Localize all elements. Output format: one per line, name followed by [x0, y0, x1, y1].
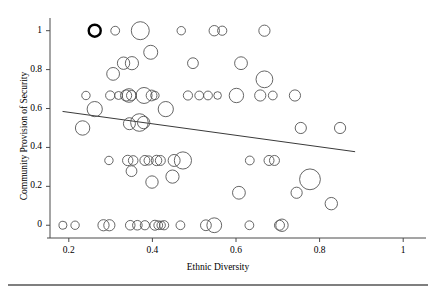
data-point-20: [136, 87, 152, 103]
scatter-plot-figure: 00.20.40.60.810.20.40.60.81 Community Pr…: [0, 0, 436, 294]
data-point-54: [146, 176, 158, 188]
data-point-1: [111, 26, 120, 35]
data-point-56: [291, 187, 302, 198]
data-point-47: [174, 152, 191, 169]
data-point-23: [183, 91, 192, 100]
x-tick-label-4: 1: [388, 245, 418, 255]
data-point-72: [245, 221, 254, 230]
data-point-35: [123, 118, 135, 130]
data-point-30: [289, 90, 300, 101]
data-point-7: [144, 45, 158, 59]
data-point-29: [268, 91, 277, 100]
data-point-12: [107, 67, 120, 80]
data-point-11: [235, 57, 248, 70]
data-point-69: [176, 221, 185, 230]
data-point-15: [106, 91, 115, 100]
data-points: [59, 22, 346, 233]
data-point-64: [140, 221, 149, 230]
data-point-25: [204, 91, 213, 100]
data-point-5: [218, 26, 227, 35]
trend-line: [63, 111, 356, 151]
data-point-3: [177, 27, 185, 35]
data-point-37: [295, 122, 306, 133]
data-point-55: [233, 186, 246, 199]
x-tick-label-2: 0.6: [221, 245, 251, 255]
data-point-28: [255, 90, 266, 101]
data-point-36: [75, 121, 89, 135]
axes: [46, 18, 426, 242]
data-point-58: [59, 221, 67, 229]
data-point-9: [125, 57, 138, 70]
data-point-10: [188, 58, 199, 69]
data-point-6: [259, 25, 270, 36]
data-point-51: [126, 166, 137, 177]
data-point-24: [195, 91, 204, 100]
highlighted-data-point: [89, 25, 101, 37]
data-point-71: [207, 218, 222, 233]
data-point-52: [166, 170, 179, 183]
regression-line: [63, 111, 356, 151]
data-point-13: [256, 71, 273, 88]
x-axis-title: Ethnic Diversity: [0, 262, 436, 272]
data-point-2: [131, 22, 149, 40]
data-point-27: [229, 88, 243, 102]
data-point-57: [325, 197, 337, 209]
data-point-26: [214, 92, 222, 100]
data-point-48: [245, 156, 254, 165]
data-point-8: [117, 57, 129, 69]
data-point-42: [140, 155, 150, 165]
data-point-38: [334, 122, 345, 133]
y-tick-label-0: 0: [16, 219, 42, 229]
x-tick-label-0: 0.2: [54, 245, 84, 255]
x-tick-label-1: 0.4: [137, 245, 167, 255]
data-point-39: [105, 156, 113, 164]
data-point-31: [87, 102, 102, 117]
data-point-14: [82, 91, 90, 99]
y-axis-title: Community Provision of Security: [19, 56, 29, 216]
data-point-70: [201, 220, 212, 231]
data-point-53: [300, 169, 321, 190]
x-tick-label-3: 0.8: [305, 245, 335, 255]
y-tick-label-5: 1: [16, 25, 42, 35]
data-point-59: [71, 221, 79, 229]
data-point-40: [123, 155, 133, 165]
data-point-32: [158, 102, 173, 117]
